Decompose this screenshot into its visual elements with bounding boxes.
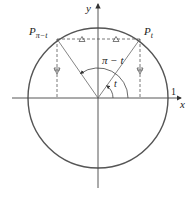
y-axis-label: y: [85, 2, 91, 14]
x-axis-label: x: [179, 98, 185, 110]
angle-label-t: t: [114, 78, 117, 89]
point-label-p-pi-minus-t: Pπ−t: [28, 25, 48, 40]
unit-tick-label: 1: [171, 86, 176, 97]
point-label-p-t: Pt: [143, 25, 154, 40]
unit-circle-diagram: y x 1 Pπ−t Pt π − t t: [0, 0, 190, 199]
angle-label-pi-minus-t: π − t: [102, 54, 124, 66]
angle-arc-t: [107, 86, 113, 98]
